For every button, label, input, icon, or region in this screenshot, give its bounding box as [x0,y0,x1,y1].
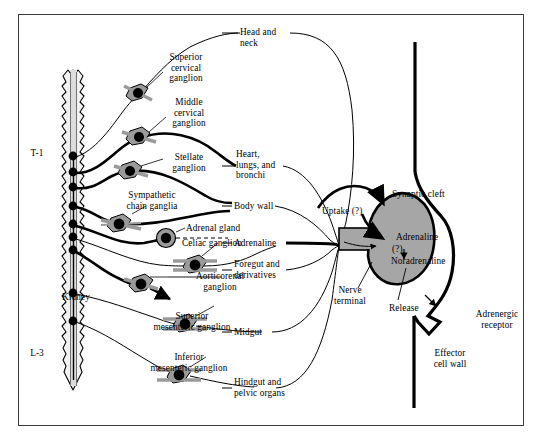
synapse-label-uptake: Uptake (?) [322,206,378,217]
spinal-label-l3: L-3 [20,348,54,359]
spinal-cord [62,70,84,390]
ganglion-label-stellate: Stellate ganglion [158,152,220,173]
ganglion-sympathetic-chain [101,214,141,232]
diagram-vector-layer [0,0,542,442]
synapse-label-synaptic-cleft: Synaptic cleft [392,189,468,200]
target-label-midgut: Midgut [234,327,296,338]
synapse-label-question: (?) [392,244,408,255]
adrenal-gland-node [157,229,176,248]
figure-canvas: T-1 L-3 Superior cervical ganglion Middl… [0,0,542,442]
spinal-label-t1: T-1 [20,148,54,159]
ganglion-label-middle-cervical: Middle cervical ganglion [158,97,220,129]
synapse-label-noradrenaline: Noradrenaline [391,256,467,267]
synapse-label-adrenergic-receptor: Adrenergic receptor [466,309,528,330]
organ-label-kidney: Kidney [62,292,122,303]
target-label-heart-lungs-bronchi: Heart, lungs, and bronchi [236,149,298,181]
synapse-label-adrenaline: Adrenaline [396,232,458,243]
target-label-adrenaline: Adrenaline [234,238,296,249]
synapse-label-nerve-terminal: Nerve terminal [325,285,375,306]
target-label-body-wall: Body wall [234,201,296,212]
ganglion-label-superior-mesenteric: Superior mesenteric ganglion [138,311,246,332]
target-label-head-neck: Head and neck [240,27,300,48]
target-label-hindgut: Hindgut and pelvic organs [234,377,304,398]
synapse-label-release: Release [389,303,435,314]
synapse-label-effector-cell-wall: Effector cell wall [419,348,481,369]
target-label-foregut: Foregut and derivatives [234,259,302,280]
ganglion-label-sympathetic-chain: Sympathetic chain ganglia [110,190,194,211]
ganglion-label-superior-cervical: Superior cervical ganglion [155,52,217,84]
ganglion-label-inferior-mesenteric: Inferior mesenteric ganglion [134,352,244,373]
organ-label-adrenal-gland: Adrenal gland [186,223,270,234]
